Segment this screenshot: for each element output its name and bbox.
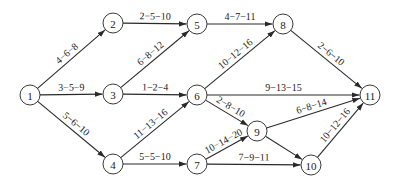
- node-9: 9: [247, 121, 267, 141]
- edge-label-2-5: 2−5−10: [139, 10, 170, 21]
- node-10: 10: [301, 155, 321, 175]
- node-label: 3: [110, 89, 116, 101]
- node-label: 6: [194, 90, 200, 102]
- arrow-line: [123, 23, 187, 24]
- node-label: 8: [280, 19, 286, 31]
- node-1: 1: [20, 85, 40, 105]
- edge-8-11: [291, 30, 362, 88]
- node-label: 9: [254, 126, 260, 138]
- node-label: 11: [365, 90, 376, 102]
- node-6: 6: [187, 85, 207, 105]
- edge-label-1-2: 4−6−8: [53, 41, 80, 67]
- edge-1-3: [40, 94, 103, 95]
- edge-label-6-8: 10−12−16: [216, 36, 255, 71]
- node-7: 7: [187, 154, 207, 174]
- edge-label-7-10: 7−9−11: [239, 151, 270, 162]
- edge-label-9-11: 6−8−14: [295, 96, 328, 116]
- edge-label-4-6: 11−13−16: [131, 106, 170, 140]
- node-label: 4: [110, 159, 116, 171]
- node-3: 3: [103, 84, 123, 104]
- node-2: 2: [103, 13, 123, 33]
- node-label: 7: [194, 159, 200, 171]
- edge-2-5: [123, 23, 187, 24]
- node-label: 1: [27, 90, 33, 102]
- edge-label-1-3: 3−5−9: [58, 81, 84, 92]
- node-label: 10: [306, 160, 318, 172]
- node-5: 5: [187, 14, 207, 34]
- edge-label-6-11: 9−13−15: [265, 82, 301, 93]
- arrow-line: [123, 94, 187, 95]
- node-label: 2: [110, 18, 116, 30]
- edge-label-3-6: 1−2−4: [142, 81, 168, 92]
- edge-6-8: [205, 31, 275, 89]
- activity-network-diagram: 4−6−83−5−95−6−102−5−106−8−121−2−411−13−1…: [0, 0, 400, 187]
- edge-1-4: [38, 101, 105, 157]
- arrow-line: [38, 101, 105, 157]
- arrow-line: [207, 164, 301, 165]
- edge-7-10: [207, 164, 301, 165]
- arrow-line: [121, 102, 189, 158]
- node-label: 5: [194, 19, 200, 31]
- edge-label-5-8: 4−7−11: [225, 11, 256, 22]
- arrow-line: [205, 31, 275, 89]
- arrow-line: [265, 136, 302, 159]
- arrow-line: [38, 30, 106, 89]
- edge-3-5: [121, 31, 189, 88]
- edge-3-6: [123, 94, 187, 95]
- node-11: 11: [360, 85, 380, 105]
- node-4: 4: [103, 154, 123, 174]
- arrow-line: [40, 94, 103, 95]
- edge-label-4-7: 5−5−10: [139, 151, 170, 162]
- edge-4-6: [121, 102, 189, 158]
- arrow-line: [121, 31, 189, 88]
- edge-label-10-11: 10−12−16: [317, 106, 352, 145]
- arrow-line: [291, 30, 362, 88]
- node-8: 8: [273, 14, 293, 34]
- edge-1-2: [38, 30, 106, 89]
- edge-9-10: [265, 136, 302, 159]
